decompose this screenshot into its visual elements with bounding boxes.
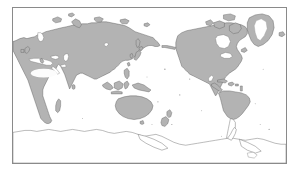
region-aleutian-islands: [162, 46, 176, 50]
pacific-island-speck: [189, 78, 190, 79]
region-ireland: [21, 49, 24, 52]
region-philippines: [124, 68, 129, 79]
region-java: [111, 91, 122, 94]
world-map-graphic: [13, 8, 286, 163]
region-sumatra: [102, 82, 113, 90]
region-new-zealand-north: [167, 110, 172, 118]
region-puerto-rico: [235, 84, 238, 86]
region-wrangel-island: [144, 23, 150, 27]
region-australia: [115, 96, 153, 120]
pacific-island-speck: [179, 94, 180, 95]
pacific-island-speck: [263, 69, 264, 70]
region-new-zealand-south: [161, 117, 169, 127]
region-sulawesi: [124, 81, 129, 89]
region-svalbard: [53, 17, 62, 23]
region-newfoundland: [241, 47, 247, 52]
region-lesser-antilles: [240, 86, 242, 91]
region-franz-josef-land: [69, 13, 75, 17]
pacific-island-speck: [171, 124, 172, 125]
region-hokkaido: [139, 47, 143, 51]
world-map-figure: [0, 0, 299, 173]
sahara-unshaded-area: [31, 69, 57, 78]
region-new-guinea: [132, 83, 151, 92]
region-new-siberian-islands: [120, 19, 129, 24]
region-hispaniola: [228, 82, 234, 86]
southern-ocean-island-speck: [260, 124, 261, 125]
region-banks-island: [206, 20, 214, 26]
map-frame: [12, 7, 287, 164]
region-south-america-shaded: [218, 91, 250, 120]
pacific-island-speck: [147, 77, 148, 78]
region-tasmania: [140, 121, 144, 125]
southern-ocean-island-speck: [269, 129, 270, 130]
pacific-island-speck: [157, 101, 158, 102]
pacific-island-speck: [164, 69, 165, 70]
pacific-island-speck: [201, 110, 202, 111]
region-madagascar: [56, 99, 61, 113]
region-ellesmere-island: [223, 14, 235, 21]
southern-ocean-island-speck: [151, 124, 152, 125]
region-sri-lanka: [72, 85, 75, 90]
region-taiwan: [127, 62, 130, 66]
pacific-island-speck: [82, 118, 83, 119]
region-borneo: [114, 81, 123, 90]
pacific-island-speck: [221, 136, 222, 137]
region-severnaya-zemlya: [94, 17, 103, 22]
pacific-island-speck: [255, 103, 256, 104]
region-iceland: [279, 32, 285, 37]
